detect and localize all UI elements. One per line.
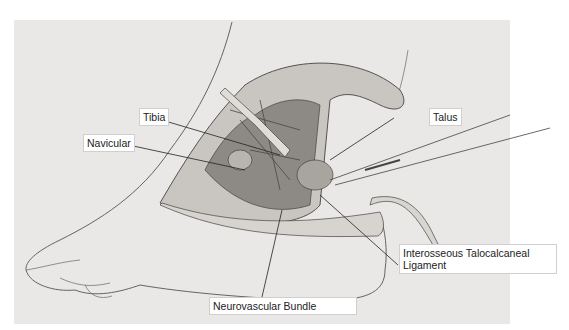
foot-surgery-illustration	[0, 0, 569, 330]
label-neurovascular-bundle: Neurovascular Bundle	[209, 297, 357, 315]
label-interosseous-talocalcaneal-ligament: Interosseous Talocalcaneal Ligament	[399, 244, 557, 274]
label-talus: Talus	[429, 108, 462, 126]
label-interosseous-line2: Ligament	[403, 259, 553, 271]
label-interosseous-line1: Interosseous Talocalcaneal	[403, 247, 553, 259]
label-navicular: Navicular	[83, 134, 135, 152]
label-tibia: Tibia	[139, 108, 169, 126]
